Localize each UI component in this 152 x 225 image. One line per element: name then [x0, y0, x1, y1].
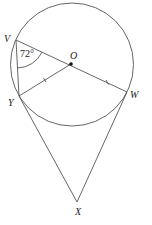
label-o: O: [70, 50, 77, 61]
tangent-yx: [19, 96, 77, 202]
tangent-wx: [77, 92, 127, 202]
label-w: W: [130, 89, 140, 100]
geometry-diagram: V O Y W X 72°: [0, 0, 152, 225]
angle-label-v: 72°: [20, 48, 34, 59]
centre-point-o: [69, 62, 73, 66]
label-x: X: [74, 206, 82, 217]
label-y: Y: [8, 97, 15, 108]
label-v: V: [4, 33, 12, 44]
